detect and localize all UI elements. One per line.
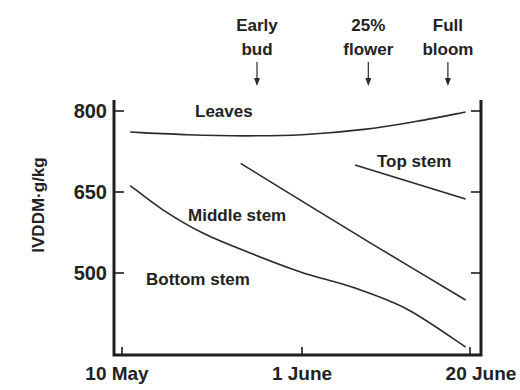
x-axis-ticks: 10 May1 June20 June xyxy=(85,347,516,384)
annotation-line2: flower xyxy=(343,40,393,59)
annotation-line1: Early xyxy=(236,16,278,35)
series-label-top-stem: Top stem xyxy=(377,152,451,171)
y-axis-label: IVDDM·g/kg xyxy=(29,157,48,252)
chart: 800650500 10 May1 June20 June LeavesTop … xyxy=(0,0,520,390)
y-axis-ticks: 800650500 xyxy=(74,100,481,284)
axis-frame xyxy=(114,100,481,355)
plot-frame xyxy=(114,100,481,355)
arrow-down-icon xyxy=(365,78,371,86)
series-line-leaves xyxy=(130,112,465,136)
y-tick-label: 800 xyxy=(74,100,107,122)
x-tick-label: 20 June xyxy=(446,363,517,384)
series-label-leaves: Leaves xyxy=(195,102,253,121)
y-tick-label: 500 xyxy=(74,262,107,284)
annotation-line1: Full xyxy=(433,16,463,35)
annotation-line1: 25% xyxy=(351,16,385,35)
series-line-bottom-stem xyxy=(130,186,465,347)
series-line-middle-stem xyxy=(241,163,466,300)
arrow-down-icon xyxy=(445,78,451,86)
annotation-line2: bloom xyxy=(422,40,473,59)
annotation-line2: bud xyxy=(241,40,272,59)
arrow-down-icon xyxy=(254,78,260,86)
series-label-bottom-stem: Bottom stem xyxy=(146,270,250,289)
stage-annotations: Earlybud25%flowerFullbloom xyxy=(236,16,473,86)
y-tick-label: 650 xyxy=(74,181,107,203)
series-label-middle-stem: Middle stem xyxy=(188,206,286,225)
x-tick-label: 10 May xyxy=(85,363,149,384)
x-tick-label: 1 June xyxy=(272,363,332,384)
series-lines: LeavesTop stemMiddle stemBottom stem xyxy=(130,102,465,347)
